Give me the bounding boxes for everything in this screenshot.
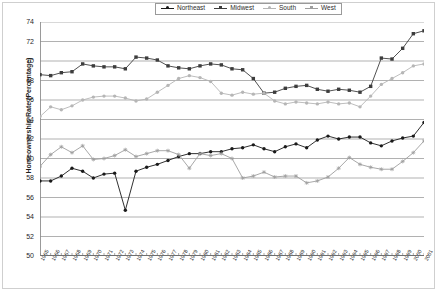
data-point	[316, 88, 319, 91]
data-point	[252, 143, 255, 146]
data-point	[92, 64, 95, 67]
data-point	[412, 134, 415, 137]
legend-label-midwest: Midwest	[230, 5, 254, 12]
data-point	[155, 149, 159, 153]
series-line-midwest	[40, 31, 424, 93]
y-tick-label: 74	[14, 18, 34, 25]
legend-label-west: West	[321, 5, 336, 12]
data-point	[241, 146, 244, 149]
data-point	[347, 156, 351, 160]
data-point	[102, 157, 106, 161]
data-point	[358, 105, 361, 108]
data-point	[60, 174, 63, 177]
data-point	[305, 101, 308, 104]
data-point	[134, 55, 137, 58]
data-point	[134, 155, 138, 159]
data-point	[145, 152, 149, 156]
data-point	[262, 170, 266, 174]
data-point	[113, 94, 116, 97]
data-point	[209, 154, 213, 158]
data-point	[422, 62, 424, 65]
data-point	[284, 87, 287, 90]
data-point	[294, 85, 297, 88]
series-line-south	[40, 64, 424, 117]
data-point	[40, 179, 42, 182]
data-point	[262, 91, 265, 94]
y-tick-label: 66	[14, 96, 34, 103]
data-point	[390, 167, 394, 171]
data-point	[81, 144, 85, 148]
data-point	[251, 174, 255, 178]
data-point	[390, 139, 393, 142]
data-point	[380, 144, 383, 147]
data-point	[134, 99, 137, 102]
data-point	[379, 167, 383, 171]
data-point	[358, 135, 361, 138]
y-tick-label: 54	[14, 213, 34, 220]
data-point	[209, 62, 212, 65]
data-point	[337, 102, 340, 105]
data-point	[166, 159, 169, 162]
y-tick-label: 60	[14, 155, 34, 162]
data-point	[49, 105, 52, 108]
data-point	[380, 83, 383, 86]
data-point	[294, 142, 297, 145]
y-tick-label: 72	[14, 38, 34, 45]
legend-item-northeast: Northeast	[161, 5, 205, 12]
y-tick-label: 62	[14, 135, 34, 142]
data-point	[166, 149, 170, 153]
data-point	[390, 77, 393, 80]
data-point	[337, 137, 340, 140]
data-point	[358, 91, 361, 94]
data-point	[230, 147, 233, 150]
data-point	[422, 29, 424, 32]
y-tick-label: 58	[14, 174, 34, 181]
data-point	[326, 175, 330, 179]
data-point	[177, 153, 181, 157]
data-point	[316, 102, 319, 105]
data-point	[156, 91, 159, 94]
data-point	[230, 93, 233, 96]
data-point	[230, 157, 234, 161]
y-tick-label: 56	[14, 194, 34, 201]
data-point	[220, 91, 223, 94]
data-point	[59, 145, 63, 149]
data-point	[252, 77, 255, 80]
legend-marker-midwest	[214, 8, 227, 9]
data-point	[113, 154, 117, 158]
data-point	[241, 176, 245, 180]
data-point	[369, 85, 372, 88]
data-point	[49, 153, 53, 157]
legend-item-south: South	[263, 5, 296, 12]
data-point	[390, 57, 393, 60]
data-point	[188, 67, 191, 70]
data-point	[188, 152, 191, 155]
data-point	[113, 65, 116, 68]
data-point	[124, 67, 127, 70]
legend-marker-northeast	[161, 8, 174, 9]
data-point	[209, 80, 212, 83]
data-point	[337, 88, 340, 91]
data-point	[326, 90, 329, 93]
data-point	[145, 56, 148, 59]
data-point	[70, 151, 74, 155]
series-canvas	[40, 22, 424, 256]
data-point	[412, 64, 415, 67]
data-point	[358, 162, 362, 166]
data-point	[273, 99, 276, 102]
data-point	[380, 56, 383, 59]
data-point	[230, 67, 233, 70]
legend-label-south: South	[279, 5, 296, 12]
data-point	[273, 150, 276, 153]
data-point	[198, 64, 201, 67]
legend-marker-west	[305, 8, 318, 9]
data-point	[326, 100, 329, 103]
data-point	[273, 175, 277, 179]
data-point	[348, 135, 351, 138]
data-point	[401, 159, 405, 163]
data-point	[198, 76, 201, 79]
data-point	[273, 91, 276, 94]
data-point	[262, 147, 265, 150]
data-point	[187, 166, 191, 170]
data-point	[177, 66, 180, 69]
